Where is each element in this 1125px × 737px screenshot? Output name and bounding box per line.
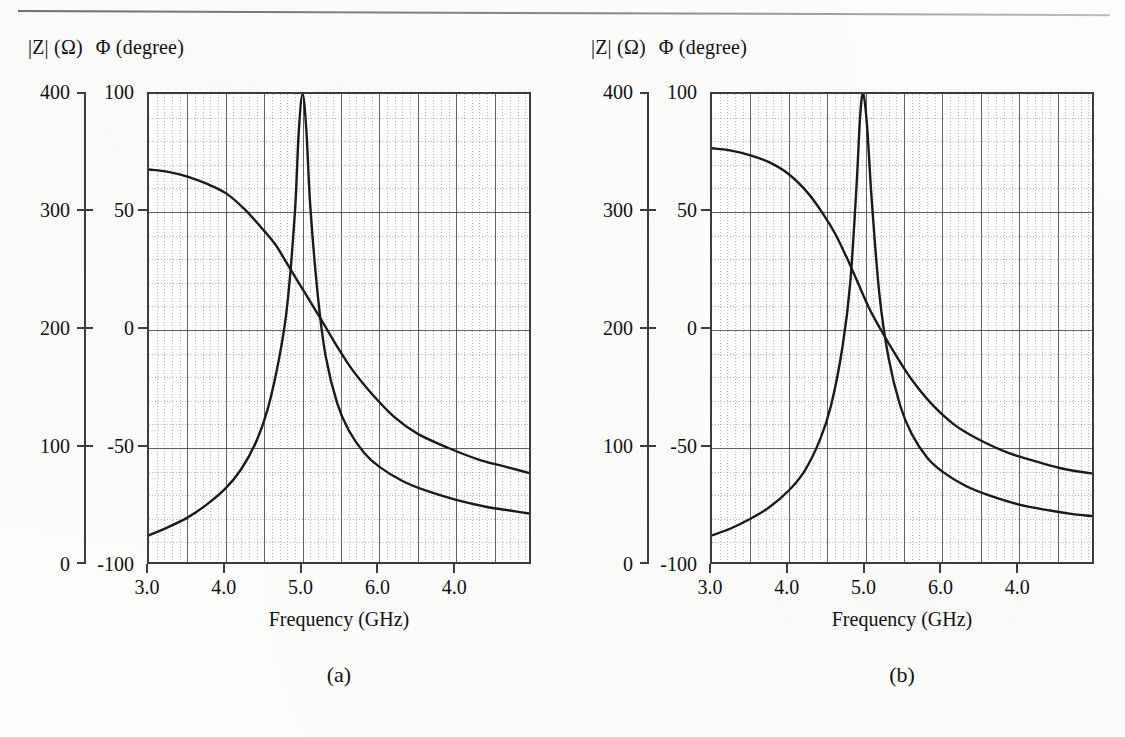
phase-axis-tick	[138, 327, 149, 329]
impedance-magnitude-curve	[712, 94, 1094, 535]
panel-a-plot-area	[147, 92, 531, 564]
frequency-axis-tick	[453, 564, 455, 573]
impedance-axis-tick-label: 400	[8, 82, 70, 102]
impedance-axis-tick-label: 200	[8, 318, 70, 338]
impedance-axis-tick-label: 300	[571, 200, 633, 220]
impedance-axis-tick-label: 100	[571, 436, 633, 456]
frequency-axis-tick-label: 6.0	[347, 576, 407, 599]
impedance-magnitude-curve	[149, 94, 531, 535]
frequency-axis-tick	[300, 564, 302, 573]
impedance-axis-tick	[640, 209, 656, 211]
figure-panel-a: |Z| (Ω)Φ (degree) 4003002001000 100500-5…	[0, 0, 562, 737]
panel-a-x-axis-title: Frequency (GHz)	[147, 608, 531, 631]
panel-b-phase-axis-labels: 100500-50-100	[641, 0, 697, 737]
impedance-axis-tick	[640, 327, 656, 329]
frequency-axis-tick-label: 6.0	[910, 576, 970, 599]
frequency-axis-tick-label: 5.0	[271, 576, 331, 599]
impedance-axis-tick	[77, 209, 93, 211]
impedance-axis-tick-label: 300	[8, 200, 70, 220]
impedance-axis-tick-label: 400	[571, 82, 633, 102]
panel-a-impedance-axis-labels: 4003002001000	[0, 0, 70, 737]
impedance-axis-tick	[640, 445, 656, 447]
phase-axis-tick-label: 100	[80, 82, 134, 102]
impedance-axis-tick-label: 0	[8, 554, 70, 574]
panel-a-caption: (a)	[147, 662, 531, 688]
frequency-axis-tick-label: 4.0	[757, 576, 817, 599]
frequency-axis-tick	[146, 564, 148, 573]
frequency-axis-tick	[1016, 564, 1018, 573]
phase-curve	[149, 170, 531, 474]
panel-b-plot-area	[710, 92, 1094, 564]
phase-axis-tick-label: -100	[643, 554, 697, 574]
phase-axis-tick-label: 100	[643, 82, 697, 102]
frequency-axis-tick	[223, 564, 225, 573]
frequency-axis-tick	[376, 564, 378, 573]
panel-b-x-axis-title: Frequency (GHz)	[710, 608, 1094, 631]
frequency-axis-tick-label: 4.0	[987, 576, 1047, 599]
frequency-axis-tick-label: 3.0	[117, 576, 177, 599]
phase-curve	[712, 148, 1094, 474]
impedance-axis-tick-label: 200	[571, 318, 633, 338]
frequency-axis-tick	[939, 564, 941, 573]
phase-axis-tick	[701, 445, 712, 447]
impedance-axis-tick	[77, 327, 93, 329]
frequency-axis-tick	[786, 564, 788, 573]
phase-axis-tick	[138, 209, 149, 211]
frequency-axis-tick	[709, 564, 711, 573]
panel-a-curves	[149, 94, 529, 562]
frequency-axis-tick	[863, 564, 865, 573]
phase-axis-tick	[138, 445, 149, 447]
impedance-axis-tick-label: 0	[571, 554, 633, 574]
phase-axis-tick-label: -100	[80, 554, 134, 574]
panel-a-phase-axis-labels: 100500-50-100	[78, 0, 134, 737]
frequency-axis-tick-label: 5.0	[834, 576, 894, 599]
impedance-axis-tick	[77, 445, 93, 447]
phase-axis-tick	[701, 209, 712, 211]
phase-axis-tick	[701, 327, 712, 329]
frequency-axis-tick-label: 4.0	[194, 576, 254, 599]
impedance-axis-tick-label: 100	[8, 436, 70, 456]
panel-b-curves	[712, 94, 1092, 562]
panel-b-caption: (b)	[710, 662, 1094, 688]
frequency-axis-tick-label: 4.0	[424, 576, 484, 599]
figure-panel-b: |Z| (Ω)Φ (degree) 4003002001000 100500-5…	[563, 0, 1125, 737]
panel-b-impedance-axis-labels: 4003002001000	[563, 0, 633, 737]
frequency-axis-tick-label: 3.0	[680, 576, 740, 599]
